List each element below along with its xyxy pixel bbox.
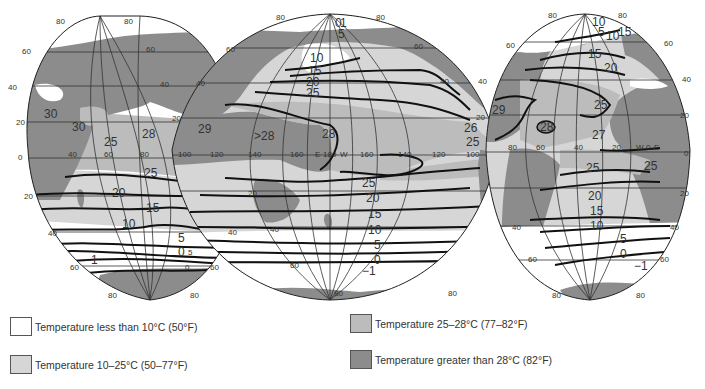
svg-text:5: 5 — [374, 238, 381, 252]
svg-text:25: 25 — [644, 159, 658, 173]
svg-text:80: 80 — [334, 289, 343, 298]
svg-text:40: 40 — [228, 228, 237, 237]
svg-text:20: 20 — [16, 118, 25, 127]
svg-text:5: 5 — [620, 232, 627, 246]
svg-text:20: 20 — [172, 114, 181, 123]
svg-text:40: 40 — [8, 83, 17, 92]
svg-text:60: 60 — [664, 39, 673, 48]
svg-text:100: 100 — [178, 150, 192, 159]
svg-text:40: 40 — [478, 77, 487, 86]
svg-text:0: 0 — [646, 143, 651, 152]
legend-swatch-hot — [350, 350, 372, 369]
svg-text:60: 60 — [660, 255, 669, 264]
legend-swatch-cool — [10, 355, 32, 374]
svg-text:25: 25 — [466, 135, 480, 149]
legend-swatch-cold — [10, 317, 32, 336]
svg-text:60: 60 — [104, 150, 113, 159]
svg-text:E: E — [315, 150, 320, 159]
svg-text:80: 80 — [108, 291, 117, 300]
svg-text:80: 80 — [552, 291, 561, 300]
svg-text:80: 80 — [190, 291, 199, 300]
svg-text:10: 10 — [310, 51, 324, 65]
svg-text:25: 25 — [362, 176, 376, 190]
svg-text:28: 28 — [142, 127, 156, 141]
svg-text:80: 80 — [276, 13, 285, 22]
svg-text:0: 0 — [684, 149, 689, 158]
svg-text:120: 120 — [210, 150, 224, 159]
svg-text:29: 29 — [492, 103, 506, 117]
svg-text:60: 60 — [146, 45, 155, 54]
svg-text:29: 29 — [198, 122, 212, 136]
legend-label: Temperature less than 10°C (50°F) — [35, 321, 197, 333]
svg-text:40: 40 — [512, 223, 521, 232]
svg-text:60: 60 — [506, 41, 515, 50]
svg-text:60: 60 — [290, 261, 299, 270]
svg-text:28: 28 — [322, 127, 336, 141]
svg-text:20: 20 — [588, 189, 602, 203]
svg-text:40: 40 — [68, 150, 77, 159]
svg-text:15: 15 — [146, 201, 160, 215]
legend-label: Temperature greater than 28°C (82°F) — [375, 354, 552, 366]
svg-text:140: 140 — [398, 150, 412, 159]
svg-text:160: 160 — [290, 150, 304, 159]
svg-text:−1: −1 — [84, 253, 98, 267]
svg-text:40: 40 — [160, 80, 169, 89]
svg-text:0: 0 — [18, 153, 23, 162]
svg-text:180: 180 — [323, 150, 337, 159]
svg-text:60: 60 — [22, 47, 31, 56]
svg-text:25: 25 — [594, 98, 608, 112]
svg-text:160: 160 — [360, 150, 374, 159]
svg-text:0: 0 — [178, 245, 185, 259]
svg-text:25: 25 — [586, 161, 600, 175]
svg-text:100: 100 — [466, 150, 480, 159]
svg-text:W: W — [636, 143, 644, 152]
svg-text:15: 15 — [618, 25, 632, 39]
svg-text:E: E — [654, 143, 659, 152]
svg-text:40: 40 — [48, 229, 57, 238]
svg-text:80: 80 — [448, 289, 457, 298]
svg-text:20: 20 — [248, 189, 257, 198]
svg-text:60: 60 — [226, 45, 235, 54]
svg-text:>28: >28 — [254, 129, 275, 143]
svg-text:140: 140 — [248, 150, 262, 159]
svg-text:20: 20 — [680, 189, 689, 198]
svg-text:80: 80 — [508, 143, 517, 152]
svg-text:40: 40 — [440, 77, 449, 86]
svg-text:10: 10 — [368, 223, 382, 237]
svg-text:−1: −1 — [362, 264, 376, 278]
svg-text:80: 80 — [376, 13, 385, 22]
svg-text:80: 80 — [618, 11, 627, 20]
svg-text:20: 20 — [680, 111, 689, 120]
svg-text:15: 15 — [588, 47, 602, 61]
sea-surface-temperature-map: 8080 6060 4040 2020 0 20 4040 6060 8080 … — [0, 0, 705, 305]
svg-text:10: 10 — [122, 217, 136, 231]
svg-text:60: 60 — [210, 263, 219, 272]
svg-text:25: 25 — [104, 135, 118, 149]
svg-text:W: W — [340, 150, 348, 159]
svg-text:60: 60 — [536, 143, 545, 152]
svg-text:5: 5 — [338, 27, 345, 41]
legend-item-cold: Temperature less than 10°C (50°F) — [10, 317, 197, 336]
legend-label: Temperature 25–28°C (77–82°F) — [375, 318, 528, 330]
svg-text:26: 26 — [464, 121, 478, 135]
svg-text:5: 5 — [598, 25, 605, 39]
svg-text:20: 20 — [476, 113, 485, 122]
svg-text:0: 0 — [185, 263, 190, 272]
svg-text:40: 40 — [196, 79, 205, 88]
svg-text:40: 40 — [670, 223, 679, 232]
svg-text:15: 15 — [368, 207, 382, 221]
svg-text:27: 27 — [592, 128, 606, 142]
svg-text:−1: −1 — [634, 259, 648, 273]
svg-text:60: 60 — [70, 263, 79, 272]
svg-text:5: 5 — [188, 248, 193, 257]
legend-swatch-warm — [350, 314, 372, 333]
svg-text:80: 80 — [548, 11, 557, 20]
legend-item-cool: Temperature 10–25°C (50–77°F) — [10, 355, 188, 374]
svg-text:80: 80 — [636, 291, 645, 300]
svg-text:20: 20 — [366, 191, 380, 205]
svg-text:20: 20 — [24, 192, 33, 201]
svg-text:15: 15 — [590, 204, 604, 218]
svg-text:10: 10 — [590, 219, 604, 233]
legend-item-hot: Temperature greater than 28°C (82°F) — [350, 350, 552, 369]
svg-text:5: 5 — [178, 231, 185, 245]
